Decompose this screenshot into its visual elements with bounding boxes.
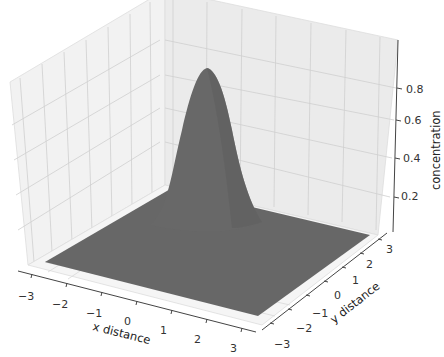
y-tick-label: 1 xyxy=(352,274,359,287)
y-tick-label: 0 xyxy=(334,289,341,302)
z-tick-label: 0.6 xyxy=(404,114,422,127)
x-tick-label: 3 xyxy=(230,342,237,355)
x-tick-label: −2 xyxy=(52,298,68,311)
z-axis-label: concentration xyxy=(429,110,443,190)
y-tick-label: −2 xyxy=(296,322,312,335)
x-tick-label: 1 xyxy=(160,324,167,337)
x-tick-label: 2 xyxy=(194,333,201,346)
x-tick-label: −1 xyxy=(86,307,102,320)
y-tick-label: −3 xyxy=(274,338,290,351)
y-tick-label: −1 xyxy=(312,307,328,320)
y-tick-label: 3 xyxy=(386,243,393,256)
z-tick-label: 0.8 xyxy=(406,83,424,96)
z-tick-label: 0.2 xyxy=(401,190,419,203)
x-axis-label: x distance xyxy=(91,319,152,347)
x-tick-label: −3 xyxy=(18,290,34,303)
z-tick-label: 0.4 xyxy=(403,152,421,165)
surface-plot: −3 −2 −1 0 1 2 3 x distance −3 −2 −1 0 1… xyxy=(0,0,444,357)
y-tick-label: 2 xyxy=(366,258,373,271)
